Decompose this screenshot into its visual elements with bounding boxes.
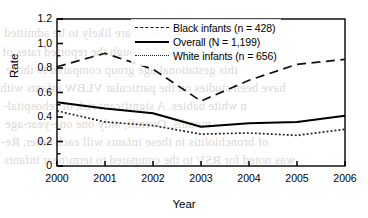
x-tick-label: 2004 [227,172,271,184]
dotted-line-key [135,50,169,62]
x-tick-label: 2006 [323,172,367,184]
y-tick-label: 1.0 [14,37,52,49]
series-line [57,102,345,127]
x-tick-label: 2003 [179,172,223,184]
legend-item-overall: Overall (N = 1,199) [135,35,277,49]
chart-legend: Black infants (n = 428) Overall (N = 1,1… [131,19,281,66]
y-tick-label: 0.4 [14,110,52,122]
solid-line-key [135,36,169,48]
x-tick-label: 2001 [83,172,127,184]
y-tick-label: 0.8 [14,61,52,73]
dashed-line-key [135,22,169,34]
line-chart-figure: Rate Year 00.20.40.60.81.01.2 2000200120… [0,0,368,218]
y-tick-label: 0.2 [14,135,52,147]
x-tick-label: 2005 [275,172,319,184]
legend-item-label: Black infants (n = 428) [173,22,275,34]
legend-item-white-infants: White infants (n = 656) [135,49,277,63]
y-tick-label: 0 [14,159,52,171]
legend-item-black-infants: Black infants (n = 428) [135,21,277,35]
y-tick-label: 0.6 [14,86,52,98]
legend-item-label: Overall (N = 1,199) [173,36,260,48]
legend-item-label: White infants (n = 656) [173,50,277,62]
x-tick-label: 2000 [35,172,79,184]
y-tick-label: 1.2 [14,12,52,24]
x-tick-label: 2002 [131,172,175,184]
series-line [57,111,345,136]
x-axis-title: Year [0,198,368,210]
